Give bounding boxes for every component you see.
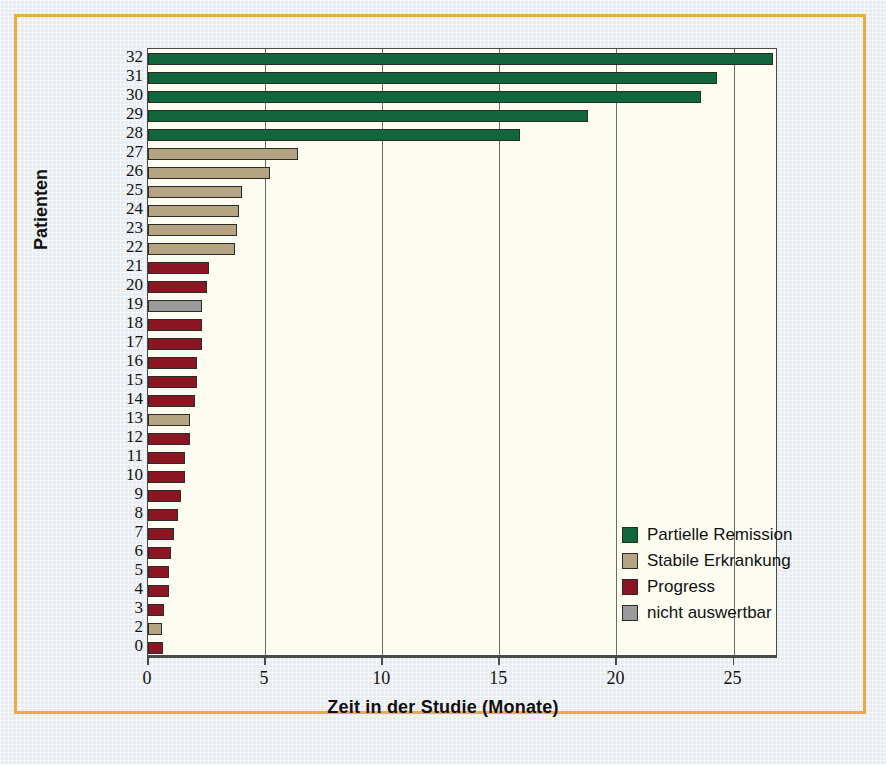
bar-patient-2 [148,623,162,635]
y-tick-label-20: 20 [126,276,143,293]
bar-patient-32 [148,53,773,65]
x-tick-label-20: 20 [606,668,624,689]
legend-swatch-green [622,527,638,543]
y-tick-label-5: 5 [135,561,144,578]
x-tick-0 [147,656,149,665]
x-tick-label-15: 15 [489,668,507,689]
x-tick-15 [498,656,500,665]
bar-patient-20 [148,281,207,293]
y-tick-label-6: 6 [135,542,144,559]
bar-patient-15 [148,376,197,388]
legend-label-3: nicht auswertbar [647,603,772,623]
y-tick-label-24: 24 [126,200,143,217]
x-tick-25 [733,656,735,665]
bar-patient-23 [148,224,237,236]
y-tick-label-12: 12 [126,428,143,445]
y-tick-label-4: 4 [135,580,144,597]
legend-item-3: nicht auswertbar [622,603,793,622]
y-tick-label-16: 16 [126,352,143,369]
x-tick-label-25: 25 [724,668,742,689]
legend-label-2: Progress [647,577,715,597]
legend-swatch-red [622,579,638,595]
bar-patient-6 [148,547,171,559]
y-tick-label-27: 27 [126,143,143,160]
x-tick-5 [264,656,266,665]
y-tick-label-17: 17 [126,333,143,350]
bar-patient-8 [148,509,178,521]
x-tick-label-0: 0 [143,668,152,689]
x-axis-line [147,656,777,658]
bar-patient-27 [148,148,298,160]
legend-item-1: Stabile Erkrankung [622,551,793,570]
bar-patient-7 [148,528,174,540]
y-tick-label-28: 28 [126,124,143,141]
y-tick-label-19: 19 [126,295,143,312]
bar-patient-13 [148,414,190,426]
y-tick-label-8: 8 [135,504,144,521]
bar-patient-28 [148,129,520,141]
y-tick-label-18: 18 [126,314,143,331]
y-tick-label-2: 2 [135,618,144,635]
bar-patient-31 [148,72,717,84]
bar-chart: 3231302928272625242322212019181716151413… [0,0,886,765]
y-tick-label-3: 3 [135,599,144,616]
y-tick-label-10: 10 [126,466,143,483]
bar-patient-16 [148,357,197,369]
bar-patient-12 [148,433,190,445]
y-tick-label-23: 23 [126,219,143,236]
x-tick-label-10: 10 [372,668,390,689]
y-tick-label-22: 22 [126,238,143,255]
x-tick-label-5: 5 [260,668,269,689]
bar-patient-3 [148,604,164,616]
legend-item-0: Partielle Remission [622,525,793,544]
bar-patient-10 [148,471,185,483]
bar-patient-24 [148,205,239,217]
bar-patient-4 [148,585,169,597]
x-axis-title: Zeit in der Studie (Monate) [0,697,886,718]
bar-patient-29 [148,110,588,122]
y-axis-tick-labels: 3231302928272625242322212019181716151413… [95,48,143,656]
bar-patient-26 [148,167,270,179]
y-tick-label-14: 14 [126,390,143,407]
y-tick-label-26: 26 [126,162,143,179]
bar-patient-19 [148,300,202,312]
y-tick-label-32: 32 [126,48,143,65]
legend-swatch-gray [622,605,638,621]
y-tick-label-7: 7 [135,523,144,540]
y-tick-label-11: 11 [127,447,143,464]
y-axis-title: Patienten [31,169,52,250]
bar-patient-18 [148,319,202,331]
legend-swatch-tan [622,553,638,569]
legend-item-2: Progress [622,577,793,596]
y-tick-label-31: 31 [126,67,143,84]
y-tick-label-21: 21 [126,257,143,274]
bar-patient-9 [148,490,181,502]
bar-patient-14 [148,395,195,407]
y-tick-label-15: 15 [126,371,143,388]
bar-patient-0 [148,642,163,654]
y-tick-label-13: 13 [126,409,143,426]
bar-patient-5 [148,566,169,578]
y-tick-label-0: 0 [135,637,144,654]
bar-patient-11 [148,452,185,464]
y-tick-label-25: 25 [126,181,143,198]
legend: Partielle RemissionStabile ErkrankungPro… [622,525,793,629]
x-tick-20 [615,656,617,665]
y-tick-label-29: 29 [126,105,143,122]
bar-patient-30 [148,91,701,103]
legend-label-0: Partielle Remission [647,525,793,545]
bar-patient-17 [148,338,202,350]
y-tick-label-30: 30 [126,86,143,103]
bar-patient-21 [148,262,209,274]
y-tick-label-9: 9 [135,485,144,502]
bar-patient-22 [148,243,235,255]
x-tick-10 [381,656,383,665]
legend-label-1: Stabile Erkrankung [647,551,791,571]
bar-patient-25 [148,186,242,198]
